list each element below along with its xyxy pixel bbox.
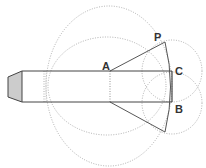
label-c: C xyxy=(175,66,183,77)
construction-diagram xyxy=(0,0,206,168)
large-circle xyxy=(46,6,172,166)
label-b: B xyxy=(175,104,183,115)
medium-circle xyxy=(48,37,166,135)
segment-ap xyxy=(110,42,165,71)
label-a: A xyxy=(102,61,110,72)
arc-p-to-lower xyxy=(165,42,171,132)
pencil-cap xyxy=(8,71,22,102)
label-p: P xyxy=(154,32,161,43)
